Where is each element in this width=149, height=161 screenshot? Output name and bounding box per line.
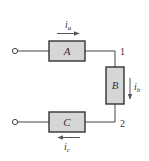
current-ib-label: ib [134,81,141,94]
terminal-bottom [12,119,17,124]
element-c: C [49,112,85,132]
current-ic: ic [58,138,80,155]
current-ib: ib [130,78,141,99]
current-ia: ia [57,19,79,34]
element-a-label: A [63,45,71,57]
element-b-label: B [112,79,119,91]
element-a: A [49,41,85,61]
node-2-label: 2 [120,118,125,129]
current-ic-label: ic [64,141,71,154]
terminal-top [12,48,17,53]
element-c-label: C [63,116,71,128]
circuit-diagram: A ia 1 B ib 2 C ic [0,0,149,161]
current-ia-label: ia [65,19,72,32]
element-b: B [106,67,124,104]
node-1-label: 1 [120,46,125,57]
